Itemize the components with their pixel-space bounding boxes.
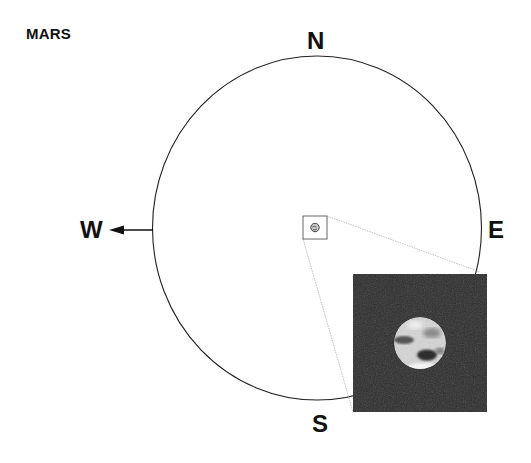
mars-inset-image [353,274,487,412]
compass-north-label: N [307,29,324,53]
compass-east-label: E [488,218,504,242]
finder-box [303,216,327,239]
mars-small-icon [311,223,319,231]
west-arrow-icon [109,226,153,235]
compass-west-label: W [80,218,103,242]
compass-south-label: S [312,412,328,436]
